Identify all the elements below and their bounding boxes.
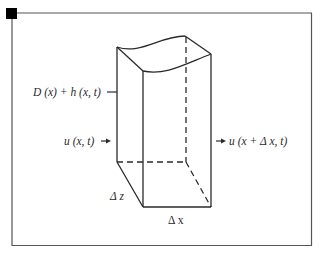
left-top-edge: [117, 47, 143, 71]
hidden-bottom-right-edge: [186, 162, 211, 207]
dx-label: Δ x: [168, 214, 184, 226]
inflow-annotation: u (x, t): [64, 135, 111, 148]
depth-annotation: D (x) + h (x, t): [32, 86, 117, 99]
figure-frame: [6, 8, 312, 246]
outflow-label: u (x + Δ x, t): [229, 135, 288, 148]
inflow-label: u (x, t): [64, 135, 95, 148]
outflow-arrow-icon: [216, 139, 226, 144]
control-volume-diagram: D (x) + h (x, t) u (x, t) u (x + Δ x, t)…: [0, 0, 323, 253]
right-top-edge: [185, 36, 211, 54]
front-surface-curve: [143, 54, 211, 72]
outflow-annotation: u (x + Δ x, t): [216, 135, 288, 148]
inflow-arrow-icon: [101, 139, 111, 144]
dz-label: Δ z: [109, 190, 124, 202]
back-surface-curve: [117, 36, 185, 49]
corner-marker: [6, 8, 17, 19]
depth-label: D (x) + h (x, t): [32, 86, 101, 99]
water-column: [117, 36, 211, 207]
